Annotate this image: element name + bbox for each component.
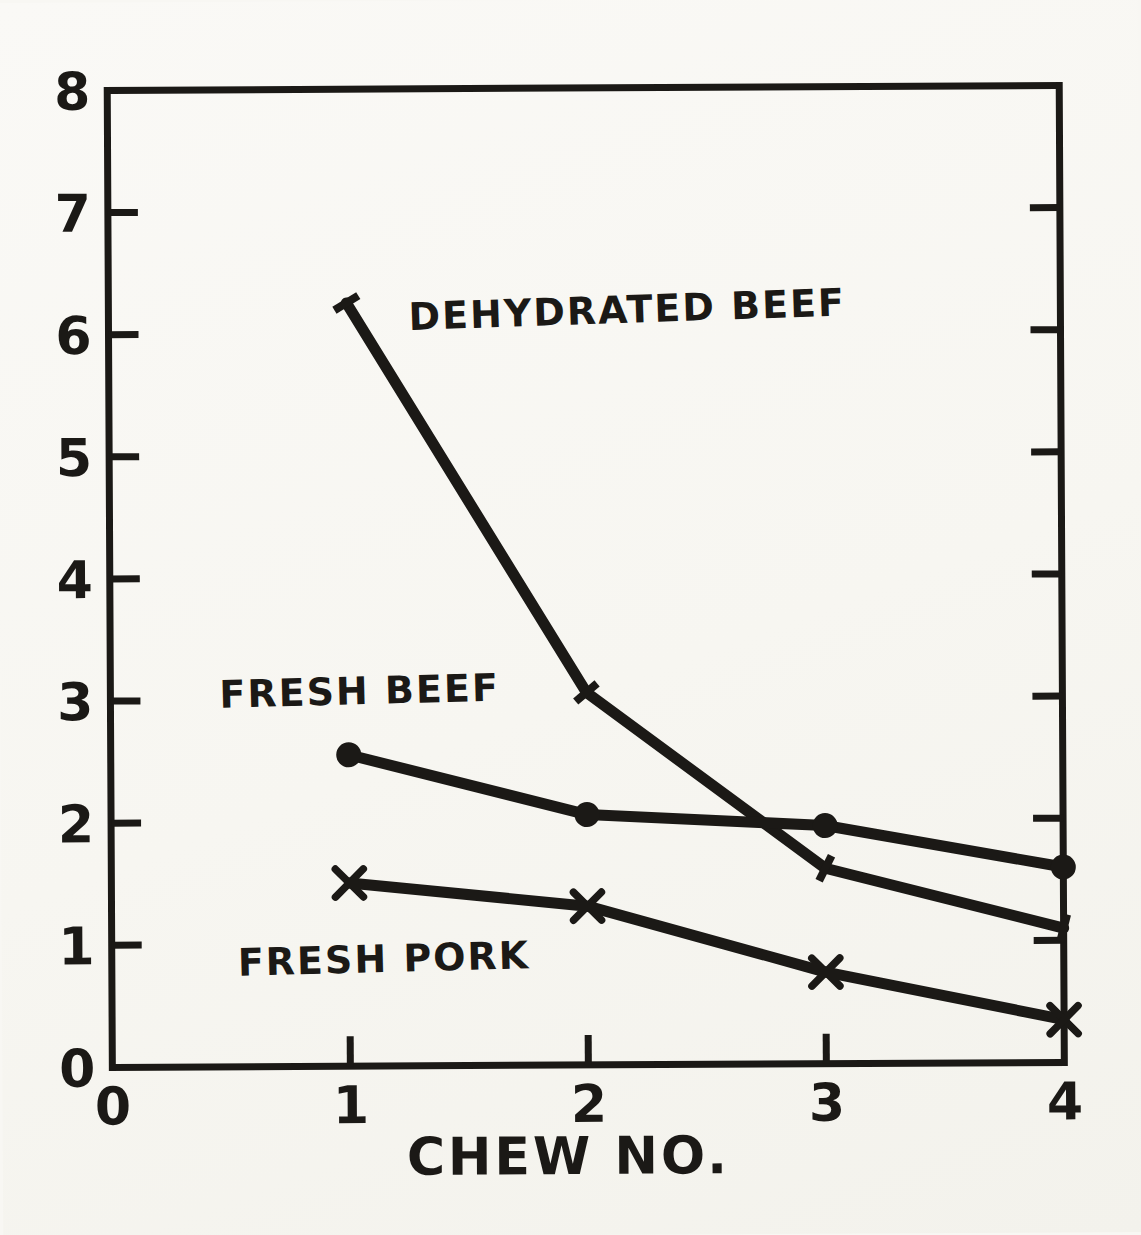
y-tick-label: 8 (54, 62, 90, 122)
y-tick-label: 6 (55, 306, 91, 366)
y-tick-label: 2 (58, 794, 94, 854)
series-dehydrated-beef-line (346, 299, 1063, 932)
plot-border (107, 85, 1064, 1067)
circle-marker (574, 802, 599, 827)
y-tick-label: 0 (59, 1038, 95, 1098)
circle-marker (336, 742, 361, 767)
scanned-chart-page: 01234567801234 DEHYDRATED BEEF FRESH BEE… (0, 0, 1141, 1235)
tick-labels: 01234567801234 (54, 56, 1082, 1136)
chart-canvas: 01234567801234 (0, 0, 1141, 1235)
x-tick-label: 3 (809, 1073, 845, 1133)
axis-ticks (108, 208, 1064, 1068)
y-tick-label: 1 (58, 916, 94, 976)
axes (107, 85, 1064, 1067)
circle-marker (813, 813, 838, 838)
y-tick-label: 4 (56, 550, 92, 610)
series-label-fresh-pork: FRESH PORK (237, 933, 531, 985)
series-fresh-beef-line (349, 751, 1064, 871)
x-tick-label: 4 (1047, 1071, 1083, 1131)
x-tick-label: 1 (333, 1075, 369, 1135)
y-tick-label: 7 (55, 184, 91, 244)
circle-marker (1051, 854, 1076, 879)
x-axis-title: CHEW NO. (407, 1125, 730, 1187)
series-fresh-beef (336, 738, 1076, 883)
y-tick-label: 5 (56, 428, 92, 488)
series-label-fresh-beef: FRESH BEEF (219, 665, 500, 716)
x-tick-label: 0 (95, 1076, 131, 1136)
y-tick-label: 3 (57, 672, 93, 732)
